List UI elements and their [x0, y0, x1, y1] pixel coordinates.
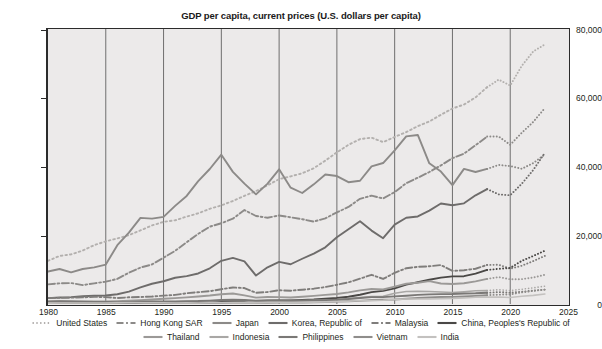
chart-legend: United StatesHong Kong SARJapanKorea, Re… [0, 316, 602, 344]
chart-root: GDP per capita, current prices (U.S. dol… [0, 0, 602, 349]
legend-item-hong-kong-sar[interactable]: Hong Kong SAR [116, 319, 202, 328]
legend-item-label: India [441, 333, 459, 342]
series-line-forecast [487, 108, 545, 145]
series-line-forecast [487, 275, 545, 280]
legend-item-japan[interactable]: Japan [212, 319, 259, 328]
legend-swatch-line [116, 319, 136, 327]
legend-swatch-icon [353, 333, 373, 341]
legend-item-china-peoples-s-republic-of[interactable]: China, Peoples's Republic of [437, 319, 569, 328]
legend-item-vietnam[interactable]: Vietnam [353, 333, 408, 342]
legend-item-malaysia[interactable]: Malaysia [371, 319, 429, 328]
legend-row: ThailandIndonesiaPhilippinesVietnamIndia [0, 330, 602, 344]
legend-swatch-icon [417, 333, 437, 341]
legend-swatch-line [32, 319, 52, 327]
plot-area [47, 28, 570, 306]
legend-swatch-icon [371, 319, 391, 327]
legend-swatch-icon [268, 319, 288, 327]
legend-row: United StatesHong Kong SARJapanKorea, Re… [0, 316, 602, 330]
legend-swatch-icon [116, 319, 136, 327]
series-united-states [48, 44, 545, 260]
series-line-historical [48, 137, 487, 286]
series-line-forecast [487, 256, 545, 269]
plot-inner [48, 29, 569, 305]
series-line-forecast [487, 154, 545, 168]
legend-item-thailand[interactable]: Thailand [143, 333, 200, 342]
legend-item-label: Vietnam [377, 333, 408, 342]
series-line-forecast [487, 153, 545, 195]
legend-swatch-icon [212, 319, 232, 327]
legend-item-indonesia[interactable]: Indonesia [209, 333, 270, 342]
legend-item-label: China, Peoples's Republic of [461, 319, 569, 328]
legend-swatch-line [143, 333, 163, 341]
legend-swatch-line [278, 333, 298, 341]
series-line-forecast [487, 44, 545, 87]
legend-item-label: Japan [236, 319, 259, 328]
legend-item-label: Korea, Republic of [292, 319, 362, 328]
legend-item-korea-republic-of[interactable]: Korea, Republic of [268, 319, 362, 328]
legend-swatch-line [268, 319, 288, 327]
legend-item-india[interactable]: India [417, 333, 459, 342]
legend-swatch-line [437, 319, 457, 327]
series-canvas [48, 29, 568, 304]
legend-swatch-icon [209, 333, 229, 341]
series-hong-kong-sar [48, 108, 545, 285]
legend-swatch-icon [437, 319, 457, 327]
legend-item-label: United States [56, 319, 107, 328]
legend-item-philippines[interactable]: Philippines [278, 333, 343, 342]
series-japan [48, 135, 545, 272]
legend-swatch-icon [278, 333, 298, 341]
legend-item-label: Indonesia [233, 333, 270, 342]
legend-item-united-states[interactable]: United States [32, 319, 107, 328]
legend-swatch-line [353, 333, 373, 341]
legend-item-label: Malaysia [395, 319, 429, 328]
series-line-historical [48, 135, 487, 272]
legend-swatch-line [209, 333, 229, 341]
legend-item-label: Thailand [167, 333, 200, 342]
legend-item-label: Hong Kong SAR [140, 319, 202, 328]
series-line-historical [48, 87, 487, 261]
legend-swatch-icon [143, 333, 163, 341]
legend-item-label: Philippines [302, 333, 343, 342]
legend-swatch-icon [32, 319, 52, 327]
legend-swatch-line [371, 319, 391, 327]
series-line-forecast [487, 286, 545, 290]
legend-swatch-line [417, 333, 437, 341]
legend-swatch-line [212, 319, 232, 327]
chart-title: GDP per capita, current prices (U.S. dol… [0, 10, 602, 21]
